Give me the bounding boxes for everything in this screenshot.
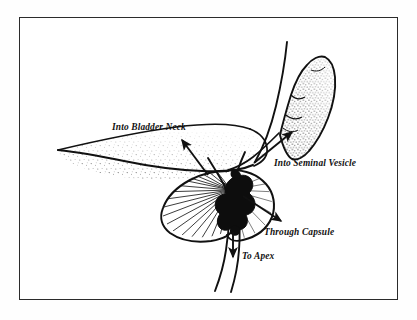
figure-page: Into Bladder Neck Into Seminal Vesicle T… (0, 0, 417, 320)
label-into-seminal-vesicle: Into Seminal Vesicle (273, 158, 356, 168)
seminal-vesicle-structure (270, 50, 345, 165)
anatomical-diagram: Into Bladder Neck Into Seminal Vesicle T… (0, 0, 417, 320)
label-into-bladder-neck: Into Bladder Neck (111, 122, 186, 132)
label-through-capsule: Through Capsule (264, 227, 334, 237)
label-to-apex: To Apex (242, 251, 275, 261)
